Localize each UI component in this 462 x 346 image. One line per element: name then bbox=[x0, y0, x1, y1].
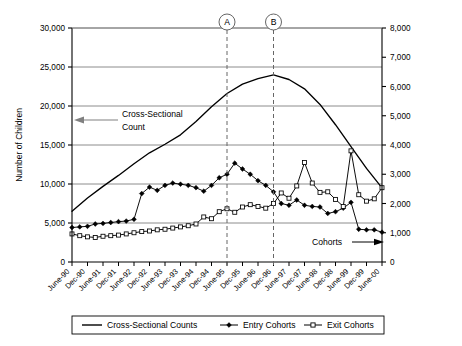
data-point-marker bbox=[148, 229, 152, 233]
legend-label: Cross-Sectional Counts bbox=[107, 320, 197, 330]
y-tick-label-left: 30,000 bbox=[40, 24, 65, 33]
data-point-marker bbox=[93, 235, 97, 239]
data-point-marker bbox=[155, 228, 159, 232]
annotation-text: Cohorts bbox=[312, 237, 342, 247]
data-point-marker bbox=[217, 210, 221, 214]
marker-letter: A bbox=[224, 17, 230, 27]
data-point-marker bbox=[318, 190, 322, 194]
y-tick-label-right: 1,000 bbox=[390, 229, 411, 238]
data-point-marker bbox=[264, 206, 268, 210]
data-point-marker bbox=[365, 199, 369, 203]
data-point-marker bbox=[233, 210, 237, 214]
data-point-marker bbox=[349, 149, 353, 153]
figure-chart: 05,00010,00015,00020,00025,00030,00001,0… bbox=[0, 0, 462, 346]
annotation-text-line1: Cross-Sectional bbox=[122, 109, 183, 119]
data-point-marker bbox=[287, 196, 291, 200]
data-point-marker bbox=[256, 204, 260, 208]
data-point-marker bbox=[109, 234, 113, 238]
data-point-marker bbox=[279, 191, 283, 195]
y-tick-label-right: 6,000 bbox=[390, 83, 411, 92]
data-point-marker bbox=[140, 230, 144, 234]
data-point-marker bbox=[132, 231, 136, 235]
data-point-marker bbox=[163, 227, 167, 231]
data-point-marker bbox=[341, 204, 345, 208]
y-tick-label-right: 8,000 bbox=[390, 24, 411, 33]
y-tick-label-left: 10,000 bbox=[40, 180, 65, 189]
data-point-marker bbox=[186, 224, 190, 228]
data-point-marker bbox=[86, 235, 90, 239]
data-point-marker bbox=[310, 181, 314, 185]
y-tick-label-right: 7,000 bbox=[390, 53, 411, 62]
y-tick-label-left: 0 bbox=[60, 258, 65, 267]
legend-label: Entry Cohorts bbox=[243, 320, 296, 330]
y-tick-label-right: 3,000 bbox=[390, 170, 411, 179]
y-tick-label-left: 15,000 bbox=[40, 141, 65, 150]
data-point-marker bbox=[210, 217, 214, 221]
data-point-marker bbox=[272, 202, 276, 206]
y-tick-label-right: 0 bbox=[390, 258, 395, 267]
data-point-marker bbox=[194, 222, 198, 226]
data-point-marker bbox=[171, 226, 175, 230]
y-tick-label-right: 2,000 bbox=[390, 200, 411, 209]
data-point-marker bbox=[202, 215, 206, 219]
data-point-marker bbox=[117, 233, 121, 237]
y-tick-label-right: 5,000 bbox=[390, 112, 411, 121]
data-point-marker bbox=[372, 197, 376, 201]
y-tick-label-left: 20,000 bbox=[40, 102, 65, 111]
annotation-text-line2: Count bbox=[122, 122, 146, 132]
y-tick-label-right: 4,000 bbox=[390, 141, 411, 150]
data-point-marker bbox=[357, 193, 361, 197]
legend-marker-open-square bbox=[311, 323, 315, 327]
data-point-marker bbox=[241, 205, 245, 209]
y-tick-label-left: 25,000 bbox=[40, 63, 65, 72]
y-tick-label-left: 5,000 bbox=[45, 219, 66, 228]
data-point-marker bbox=[78, 234, 82, 238]
data-point-marker bbox=[248, 203, 252, 207]
legend-label: Exit Cohorts bbox=[327, 320, 374, 330]
legend: Cross-Sectional CountsEntry CohortsExit … bbox=[72, 316, 384, 334]
data-point-marker bbox=[303, 161, 307, 165]
data-point-marker bbox=[334, 197, 338, 201]
y-axis-title: Number of Children bbox=[14, 108, 24, 182]
data-point-marker bbox=[179, 225, 183, 229]
data-point-marker bbox=[295, 184, 299, 188]
data-point-marker bbox=[326, 190, 330, 194]
data-point-marker bbox=[101, 234, 105, 238]
data-point-marker bbox=[124, 232, 128, 236]
marker-letter: B bbox=[271, 17, 277, 27]
chart-container: 05,00010,00015,00020,00025,00030,00001,0… bbox=[0, 0, 462, 346]
